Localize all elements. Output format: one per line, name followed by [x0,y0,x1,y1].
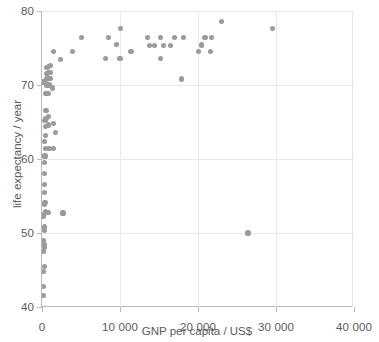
data-point [152,43,157,48]
data-points-layer [42,11,354,307]
data-point [172,35,177,40]
y-axis-tick [37,159,42,160]
data-point [208,49,213,54]
data-point [51,146,56,151]
x-axis-tick [276,307,277,312]
data-point [161,43,166,48]
x-axis-tick [120,307,121,312]
y-gridline [42,233,354,234]
data-point [158,56,163,61]
data-point [196,49,201,54]
x-axis-tick [198,307,199,312]
x-axis-title: GNP per capita / US$ [41,325,353,337]
data-point [245,230,250,235]
y-gridline [42,11,354,12]
data-point [202,35,207,40]
data-point [209,35,214,40]
data-point [42,182,47,187]
scatter-chart-figure: 010 00020 00030 00040 0004050607080 GNP … [0,0,379,342]
data-point [45,91,50,96]
data-point [53,130,58,135]
data-point [51,49,56,54]
data-point [158,35,163,40]
data-point [42,139,47,144]
data-point [79,35,84,40]
data-point [199,42,204,47]
data-point [117,56,122,61]
data-point [48,76,53,81]
data-point [42,264,47,269]
data-point [42,153,47,158]
data-point [48,63,53,68]
x-axis-tick [42,307,43,312]
data-point [58,57,63,62]
data-point [46,210,51,215]
data-point [128,49,133,54]
data-point [103,56,108,61]
data-point [168,43,173,48]
data-point [42,269,46,274]
y-axis-tick-label: 40 [4,301,34,313]
y-axis-tick [37,11,42,12]
data-point [181,35,186,40]
data-point [145,35,150,40]
data-point [43,133,48,138]
y-axis-tick [37,233,42,234]
data-point [51,121,56,126]
data-point [270,26,275,31]
data-point [106,35,111,40]
data-point [42,171,47,176]
data-point [60,210,65,215]
data-point [179,76,184,81]
data-point [114,42,119,47]
data-point [219,19,224,24]
y-gridline [42,85,354,86]
data-point [118,26,123,31]
data-point [46,114,51,119]
data-point [42,293,46,298]
x-axis-tick [354,307,355,312]
data-point [44,108,49,113]
data-point [70,49,75,54]
data-point [42,160,47,165]
data-point [48,70,53,75]
data-point [42,200,47,205]
y-axis-tick [37,85,42,86]
y-gridline [42,159,354,160]
plot-area: 010 00020 00030 00040 0004050607080 [41,11,353,307]
data-point [42,190,47,195]
data-point [42,224,47,229]
data-point [46,82,51,87]
y-axis-tick [37,307,42,308]
y-axis-tick-label: 80 [4,5,34,17]
data-point [42,284,46,289]
y-axis-title: life expectancy / year [11,59,23,249]
